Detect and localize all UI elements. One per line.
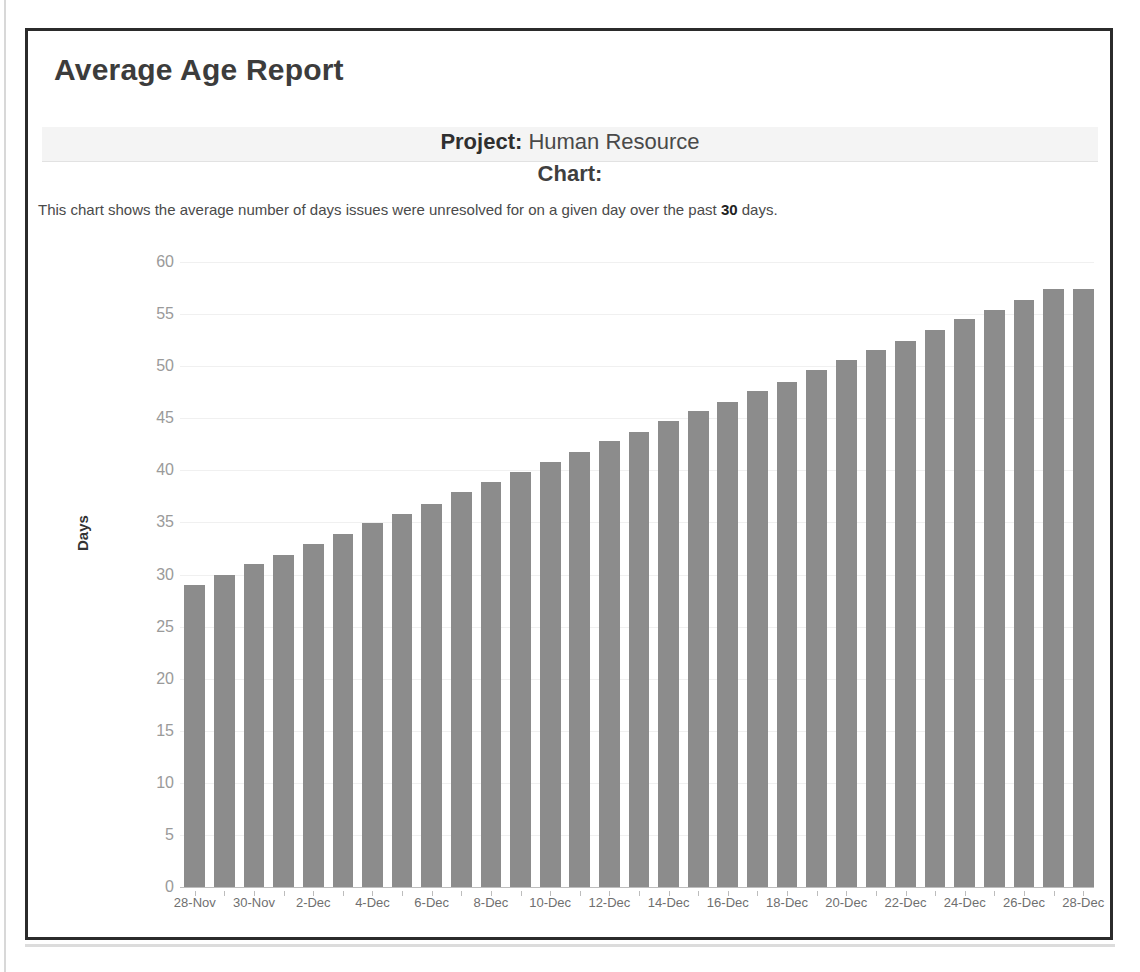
x-tick-label: 10-Dec <box>529 895 571 910</box>
bar <box>717 402 738 887</box>
project-header: Project: Human Resource <box>28 129 1112 155</box>
y-tick-label: 10 <box>126 774 174 792</box>
y-tick-label: 5 <box>126 826 174 844</box>
y-tick-label: 40 <box>126 461 174 479</box>
bar <box>836 360 857 887</box>
x-tick-mark <box>994 891 995 896</box>
x-tick-label: 24-Dec <box>944 895 986 910</box>
bar <box>658 421 679 887</box>
x-tick-label: 2-Dec <box>296 895 331 910</box>
project-label: Project: <box>440 129 522 154</box>
bar <box>806 370 827 887</box>
scan-edge-artifact <box>4 0 6 972</box>
x-tick-mark <box>757 891 758 896</box>
bar <box>273 555 294 887</box>
bar <box>1043 289 1064 887</box>
x-tick-mark <box>521 891 522 896</box>
bar-chart: Days 051015202530354045505560 28-Nov30-N… <box>68 231 1098 921</box>
x-tick-label: 12-Dec <box>588 895 630 910</box>
x-tick-mark <box>876 891 877 896</box>
chart-label: Chart: <box>28 161 1112 187</box>
x-tick-mark <box>1054 891 1055 896</box>
x-tick-mark <box>580 891 581 896</box>
bar <box>421 504 442 887</box>
bar <box>954 319 975 887</box>
bar <box>1014 300 1035 888</box>
x-tick-label: 8-Dec <box>474 895 509 910</box>
chart-description-prefix: This chart shows the average number of d… <box>38 201 721 218</box>
scan-shadow-artifact <box>25 944 1115 947</box>
bar <box>895 341 916 887</box>
bar <box>451 492 472 887</box>
x-tick-mark <box>343 891 344 896</box>
bar <box>481 482 502 887</box>
chart-description-suffix: days. <box>738 201 778 218</box>
bar <box>688 411 709 887</box>
bar <box>303 544 324 887</box>
project-value: Human Resource <box>528 129 699 154</box>
x-tick-mark <box>224 891 225 896</box>
bar <box>1073 289 1094 887</box>
y-tick-label: 25 <box>126 618 174 636</box>
bars-layer <box>180 231 1098 921</box>
bar <box>747 391 768 887</box>
y-tick-label: 45 <box>126 409 174 427</box>
y-axis-title: Days <box>74 531 91 551</box>
chart-description: This chart shows the average number of d… <box>38 201 1102 218</box>
y-tick-label: 20 <box>126 670 174 688</box>
bar <box>540 462 561 887</box>
bar <box>866 350 887 888</box>
bar <box>599 441 620 887</box>
x-tick-label: 26-Dec <box>1003 895 1045 910</box>
x-tick-label: 16-Dec <box>707 895 749 910</box>
y-tick-label: 30 <box>126 566 174 584</box>
x-tick-mark <box>935 891 936 896</box>
x-tick-mark <box>461 891 462 896</box>
x-tick-mark <box>284 891 285 896</box>
y-tick-label: 55 <box>126 305 174 323</box>
x-tick-label: 4-Dec <box>355 895 390 910</box>
y-tick-label: 0 <box>126 878 174 896</box>
bar <box>333 534 354 887</box>
x-tick-label: 28-Nov <box>174 895 216 910</box>
x-tick-label: 30-Nov <box>233 895 275 910</box>
y-tick-label: 50 <box>126 357 174 375</box>
x-tick-label: 6-Dec <box>414 895 449 910</box>
bar <box>214 575 235 888</box>
page-title: Average Age Report <box>54 53 344 87</box>
x-tick-label: 22-Dec <box>885 895 927 910</box>
y-tick-label: 15 <box>126 722 174 740</box>
x-axis-ticks: 28-Nov30-Nov2-Dec4-Dec6-Dec8-Dec10-Dec12… <box>180 891 1098 921</box>
chart-description-days-count: 30 <box>721 201 738 218</box>
bar <box>777 382 798 887</box>
x-tick-label: 28-Dec <box>1062 895 1104 910</box>
bar <box>362 523 383 887</box>
x-tick-mark <box>817 891 818 896</box>
y-axis-ticks: 051015202530354045505560 <box>92 231 174 921</box>
x-tick-label: 14-Dec <box>648 895 690 910</box>
bar <box>925 330 946 887</box>
bar <box>629 432 650 887</box>
x-tick-mark <box>639 891 640 896</box>
bar <box>510 472 531 887</box>
bar <box>184 585 205 887</box>
report-frame: Average Age Report Project: Human Resour… <box>25 28 1113 940</box>
bar <box>244 564 265 887</box>
bar <box>984 310 1005 887</box>
x-tick-label: 18-Dec <box>766 895 808 910</box>
x-tick-mark <box>402 891 403 896</box>
y-tick-label: 60 <box>126 253 174 271</box>
x-tick-label: 20-Dec <box>825 895 867 910</box>
x-tick-mark <box>698 891 699 896</box>
bar <box>569 452 590 887</box>
bar <box>392 514 413 887</box>
y-tick-label: 35 <box>126 513 174 531</box>
